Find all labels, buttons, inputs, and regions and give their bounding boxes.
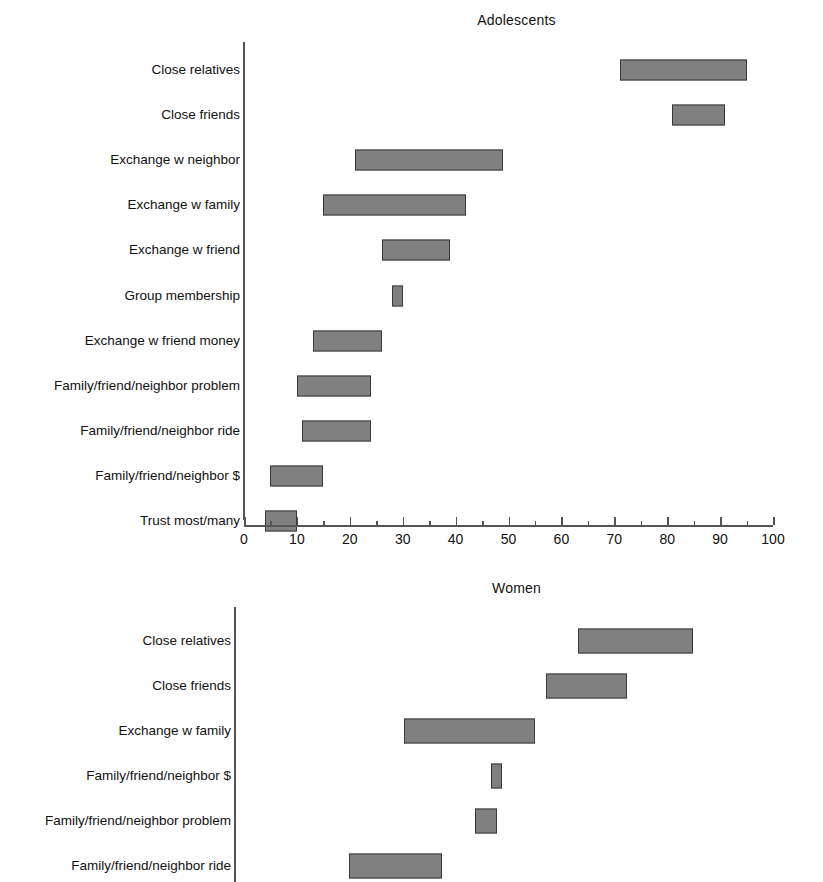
chart-panel-women: Women Close relativesClose friendsExchan… — [0, 570, 823, 882]
category-label: Family/friend/neighbor ride — [80, 424, 240, 438]
plot-area-adolescents: Close relativesClose friendsExchange w n… — [0, 0, 823, 570]
x-tick-major — [667, 517, 669, 525]
category-label: Family/friend/neighbor problem — [54, 379, 240, 393]
range-bar — [302, 420, 371, 441]
x-tick-label: 10 — [289, 531, 305, 547]
x-tick-minor — [535, 521, 537, 525]
range-bar — [546, 674, 628, 699]
category-label: Close friends — [161, 108, 240, 122]
x-tick-major — [244, 517, 246, 525]
x-tick-major — [403, 517, 405, 525]
category-label: Exchange w friend money — [85, 334, 240, 348]
category-label: Family/friend/neighbor problem — [45, 814, 231, 828]
range-bar — [270, 465, 323, 486]
plot-area-women: Close relativesClose friendsExchange w f… — [0, 570, 823, 882]
category-label: Family/friend/neighbor $ — [86, 769, 231, 783]
x-tick-label: 40 — [448, 531, 464, 547]
range-bar — [578, 629, 692, 654]
x-tick-major — [350, 517, 352, 525]
chart-panel-adolescents: Adolescents Close relativesClose friends… — [0, 0, 823, 570]
x-tick-minor — [747, 521, 749, 525]
x-tick-minor — [588, 521, 590, 525]
range-bar — [620, 60, 747, 81]
range-bar — [313, 330, 382, 351]
category-label: Family/friend/neighbor $ — [95, 469, 240, 483]
x-tick-label: 0 — [240, 531, 248, 547]
range-bar — [297, 375, 371, 396]
y-axis-spine — [243, 42, 245, 520]
range-bar — [392, 285, 403, 306]
range-bar — [349, 854, 442, 879]
x-tick-label: 80 — [659, 531, 675, 547]
x-tick-major — [773, 517, 775, 525]
category-label: Close friends — [152, 679, 231, 693]
x-tick-label: 90 — [712, 531, 728, 547]
category-label: Family/friend/neighbor ride — [71, 859, 231, 873]
x-tick-label: 100 — [761, 531, 784, 547]
x-tick-major — [561, 517, 563, 525]
category-label: Exchange w family — [127, 198, 240, 212]
x-tick-label: 60 — [554, 531, 570, 547]
x-tick-major — [720, 517, 722, 525]
x-axis-line — [244, 525, 773, 527]
range-bar — [355, 150, 503, 171]
x-tick-minor — [641, 521, 643, 525]
category-label: Close relatives — [151, 63, 240, 77]
range-bar — [382, 240, 451, 261]
category-label: Group membership — [124, 289, 240, 303]
range-bar — [323, 195, 466, 216]
x-tick-label: 20 — [342, 531, 358, 547]
x-tick-major — [456, 517, 458, 525]
x-tick-label: 50 — [501, 531, 517, 547]
x-tick-minor — [323, 521, 325, 525]
category-label: Exchange w family — [118, 724, 231, 738]
x-tick-minor — [270, 521, 272, 525]
y-axis-spine — [234, 607, 236, 882]
x-tick-major — [297, 517, 299, 525]
x-tick-label: 70 — [607, 531, 623, 547]
x-tick-minor — [429, 521, 431, 525]
category-label: Exchange w friend — [129, 243, 240, 257]
x-tick-minor — [694, 521, 696, 525]
range-bar — [475, 809, 497, 834]
x-tick-major — [509, 517, 511, 525]
category-label: Trust most/many — [140, 514, 240, 528]
x-tick-minor — [376, 521, 378, 525]
category-label: Close relatives — [142, 634, 231, 648]
range-bar — [672, 105, 725, 126]
category-label: Exchange w neighbor — [110, 153, 240, 167]
x-tick-minor — [482, 521, 484, 525]
range-bar — [404, 719, 535, 744]
x-tick-major — [614, 517, 616, 525]
range-bar — [491, 764, 502, 789]
x-tick-label: 30 — [395, 531, 411, 547]
